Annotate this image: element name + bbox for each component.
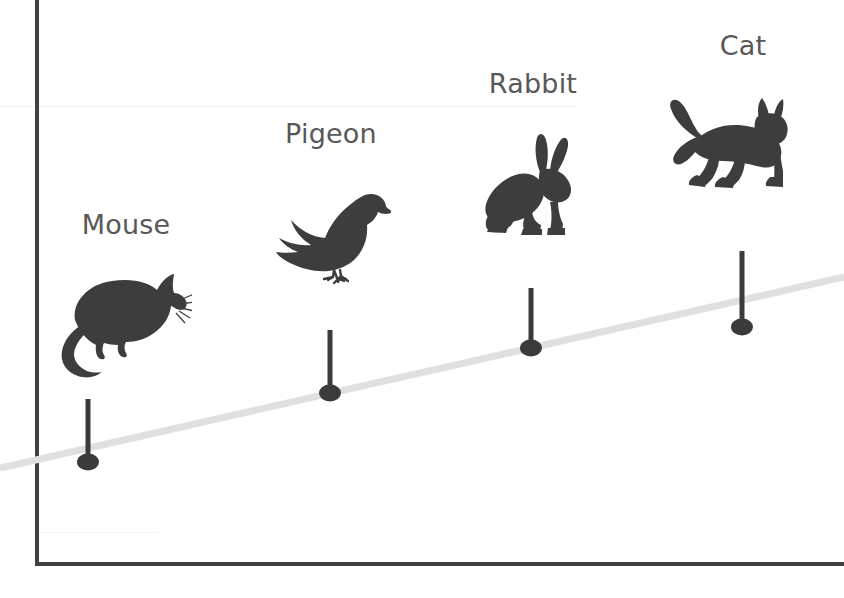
cat-silhouette-icon <box>657 97 793 194</box>
species-label-mouse: Mouse <box>82 209 171 240</box>
species-label-rabbit: Rabbit <box>489 68 577 99</box>
faint-gridline-upper <box>0 106 575 107</box>
data-point-mouse[interactable] <box>77 454 99 471</box>
rabbit-silhouette-icon <box>484 132 580 237</box>
faint-gridline-lower <box>39 532 159 533</box>
y-axis-line <box>35 0 39 566</box>
mouse-silhouette-icon <box>58 268 192 384</box>
pigeon-silhouette-icon <box>276 180 392 287</box>
data-point-cat[interactable] <box>731 319 753 336</box>
x-axis-line <box>35 562 844 566</box>
scatter-chart-figure: Mouse Pigeon <box>0 0 844 598</box>
data-point-rabbit[interactable] <box>520 340 542 357</box>
stem-cat <box>740 251 745 327</box>
species-label-pigeon: Pigeon <box>285 118 377 149</box>
data-point-pigeon[interactable] <box>319 385 341 402</box>
species-label-cat: Cat <box>720 30 767 61</box>
